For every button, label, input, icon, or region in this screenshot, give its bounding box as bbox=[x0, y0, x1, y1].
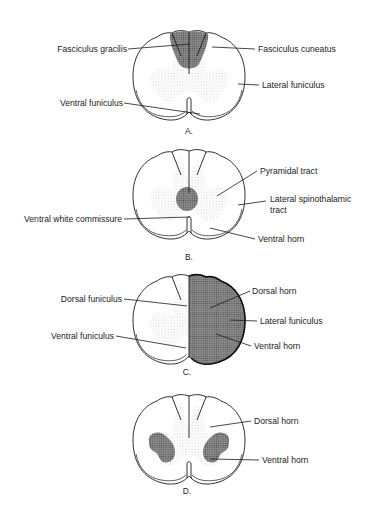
panel-label-b: B. bbox=[185, 252, 193, 262]
panel-label-a: A. bbox=[185, 126, 193, 136]
label-ventral-horn-c: Ventral horn bbox=[254, 341, 301, 351]
panel-d bbox=[133, 395, 245, 484]
label-ventral-horn-b: Ventral horn bbox=[258, 234, 305, 244]
label-pyramidal-tract: Pyramidal tract bbox=[260, 166, 318, 176]
label-lateral-spinothalamic: Lateral spinothalamic bbox=[270, 194, 352, 204]
label-ventral-funiculus-a: Ventral funiculus bbox=[60, 98, 123, 108]
panel-c bbox=[133, 275, 245, 364]
label-lateral-spinothalamic-tract: tract bbox=[270, 205, 287, 215]
label-dorsal-horn-d: Dorsal horn bbox=[254, 416, 299, 426]
label-lateral-funiculus-a: Lateral funiculus bbox=[262, 80, 325, 90]
panel-label-d: D. bbox=[183, 486, 191, 496]
panel-label-c: C. bbox=[183, 367, 191, 377]
label-ventral-horn-d: Ventral horn bbox=[262, 455, 309, 465]
spinal-cord-figure: Fasciculus gracilis Fasciculus cuneatus … bbox=[0, 0, 378, 524]
label-fasciculus-gracilis: Fasciculus gracilis bbox=[57, 44, 127, 54]
label-dorsal-horn-c: Dorsal horn bbox=[252, 286, 297, 296]
label-ventral-funiculus-c: Ventral funiculus bbox=[51, 331, 114, 341]
label-lateral-funiculus-c: Lateral funiculus bbox=[260, 316, 323, 326]
label-dorsal-funiculus: Dorsal funiculus bbox=[61, 294, 122, 304]
label-fasciculus-cuneatus: Fasciculus cuneatus bbox=[258, 44, 336, 54]
label-ventral-white-commissure: Ventral white commissure bbox=[24, 214, 122, 224]
panel-b bbox=[133, 150, 245, 239]
